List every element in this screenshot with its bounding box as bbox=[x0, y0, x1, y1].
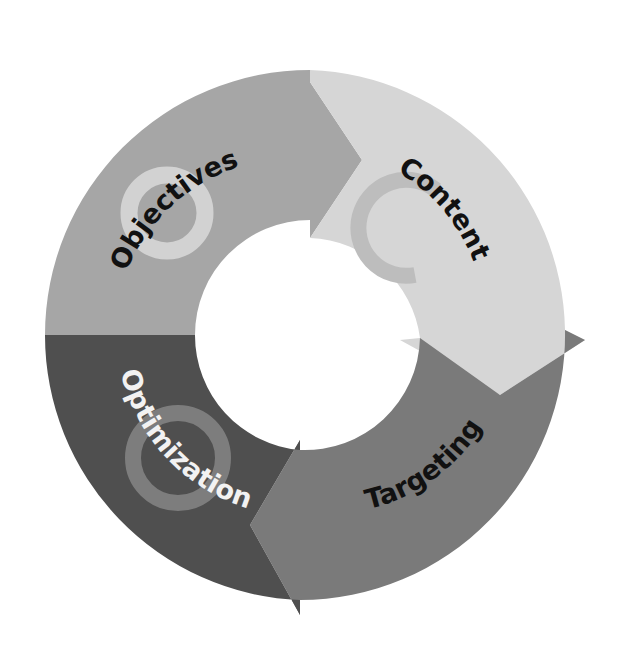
cycle-diagram: Objectives Content Targeting Optimizatio… bbox=[0, 0, 621, 667]
segment-optimization bbox=[45, 335, 300, 615]
